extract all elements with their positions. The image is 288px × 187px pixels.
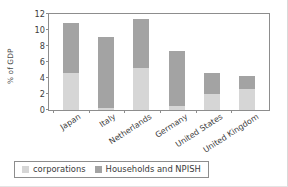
stacked-bar[interactable] xyxy=(204,73,220,110)
stacked-bar[interactable] xyxy=(169,51,185,110)
bar-segment-households[interactable] xyxy=(169,51,185,106)
y-tick-label: 6 xyxy=(40,58,49,66)
stacked-bar[interactable] xyxy=(98,37,114,110)
bar-segment-corporations[interactable] xyxy=(204,94,220,110)
legend-item[interactable]: Households and NPISH xyxy=(95,165,201,173)
bar-group xyxy=(49,14,269,110)
bar-segment-households[interactable] xyxy=(98,37,114,107)
stacked-bar[interactable] xyxy=(133,19,149,110)
legend-label: Households and NPISH xyxy=(106,165,201,173)
bar-segment-households[interactable] xyxy=(63,23,79,73)
chart-legend: corporationsHouseholds and NPISH xyxy=(14,161,209,178)
bar-segment-corporations[interactable] xyxy=(98,108,114,110)
legend-label: corporations xyxy=(33,165,86,173)
bar-segment-households[interactable] xyxy=(204,73,220,93)
bar-segment-households[interactable] xyxy=(133,19,149,68)
legend-swatch-icon xyxy=(95,166,102,173)
y-tick-label: 4 xyxy=(40,74,49,82)
plot-area: 024681012 xyxy=(48,13,270,111)
y-tick-label: 10 xyxy=(35,26,49,34)
bar-slot xyxy=(159,14,194,110)
x-tick-label: Italy xyxy=(99,113,118,129)
bar-slot xyxy=(88,14,123,110)
y-tick-label: 8 xyxy=(40,42,49,50)
legend-item[interactable]: corporations xyxy=(22,165,86,173)
x-tick-label: Japan xyxy=(59,113,82,132)
y-tick-label: 12 xyxy=(35,10,49,18)
bar-slot xyxy=(230,14,265,110)
bar-segment-corporations[interactable] xyxy=(133,68,149,110)
bar-segment-corporations[interactable] xyxy=(239,89,255,110)
stacked-bar[interactable] xyxy=(63,23,79,110)
bar-slot xyxy=(124,14,159,110)
bar-slot xyxy=(53,14,88,110)
bar-segment-corporations[interactable] xyxy=(169,106,185,110)
stacked-bar[interactable] xyxy=(239,76,255,110)
bar-segment-households[interactable] xyxy=(239,76,255,89)
bar-slot xyxy=(194,14,229,110)
y-axis-title: % of GDP xyxy=(2,28,18,104)
legend-swatch-icon xyxy=(22,166,29,173)
chart-figure: % of GDP 024681012 JapanItalyNetherlands… xyxy=(0,0,288,187)
bar-segment-corporations[interactable] xyxy=(63,73,79,110)
y-tick-label: 2 xyxy=(40,90,49,98)
